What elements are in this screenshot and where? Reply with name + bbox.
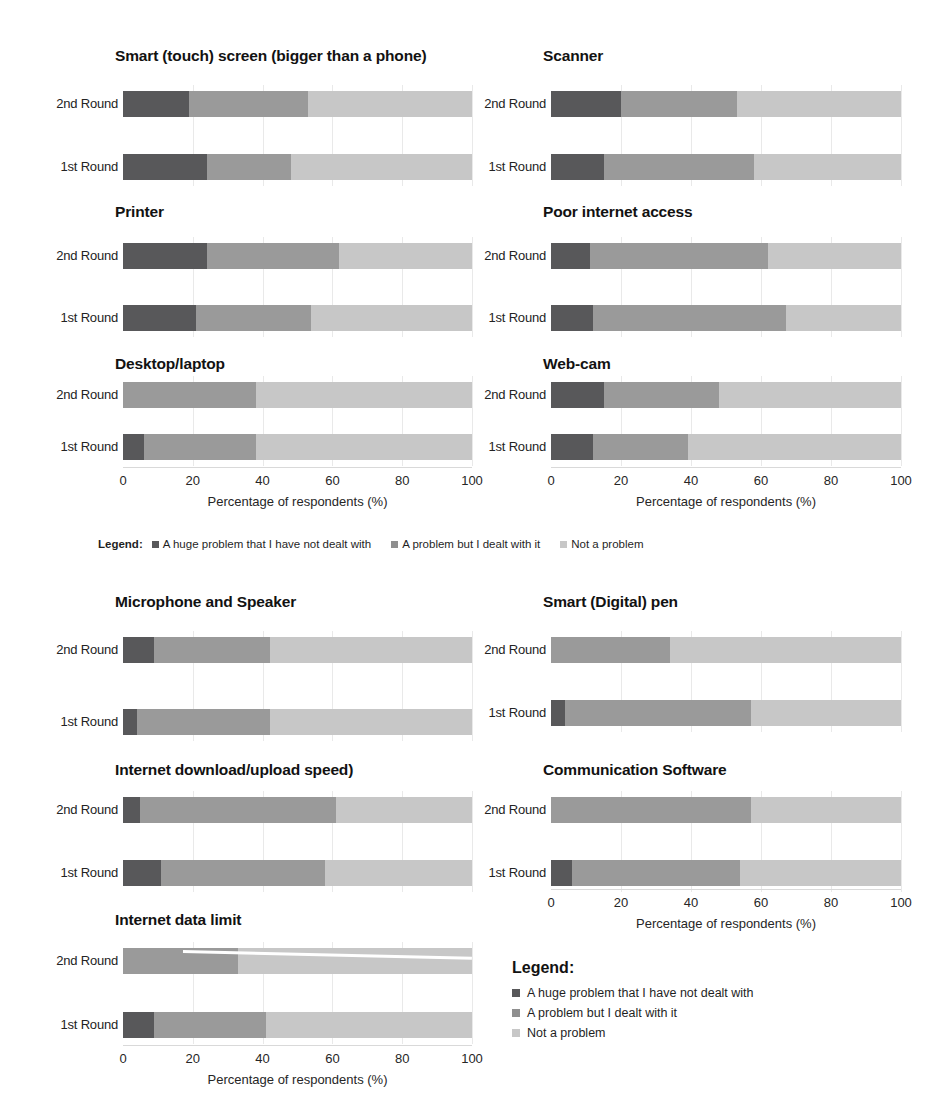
legend-block-item-label: A huge problem that I have not dealt wit…: [527, 986, 754, 1000]
row-label: 2nd Round: [484, 387, 546, 402]
stacked-bar: [123, 860, 472, 886]
panel-title: Internet data limit: [115, 911, 241, 929]
bar-segment-0: [551, 154, 604, 180]
legend-item: Not a problem: [560, 538, 643, 550]
stacked-bar: [123, 91, 472, 117]
legend-block-item-label: A problem but I dealt with it: [527, 1006, 677, 1020]
row-label: 2nd Round: [56, 642, 118, 657]
legend-block-item: A huge problem that I have not dealt wit…: [512, 986, 754, 1000]
bar-segment-1: [196, 305, 311, 331]
row-label: 2nd Round: [56, 953, 118, 968]
panel-title: Poor internet access: [543, 203, 692, 221]
axis-tick: 60: [754, 895, 768, 910]
stacked-bar: [123, 243, 472, 269]
legend-block: Legend:A huge problem that I have not de…: [512, 959, 754, 1046]
stacked-bar: [123, 305, 472, 331]
axis-tick: 60: [325, 1051, 339, 1066]
axis-line: [123, 467, 472, 468]
gridline: [901, 85, 902, 186]
stacked-bar: [123, 434, 472, 460]
bar-segment-1: [593, 434, 688, 460]
bar-segment-0: [551, 305, 593, 331]
bar-segment-2: [308, 91, 472, 117]
bar-segment-2: [256, 382, 472, 408]
page-top-cut-text: [0, 0, 942, 7]
legend-block-title: Legend:: [512, 959, 754, 977]
legend-swatch-1: [391, 541, 398, 548]
bar-segment-2: [270, 709, 472, 735]
bar-segment-1: [207, 154, 291, 180]
bar-segment-2: [291, 154, 472, 180]
axis-tick: 80: [824, 473, 838, 488]
gridline: [472, 942, 473, 1044]
axis-tick: 80: [824, 895, 838, 910]
bar-segment-1: [572, 860, 740, 886]
axis-line: [551, 889, 901, 890]
bar-segment-2: [266, 1012, 472, 1038]
axis-tick: 20: [614, 895, 628, 910]
stacked-bar: [551, 860, 901, 886]
bar-segment-2: [786, 305, 902, 331]
row-label: 1st Round: [489, 439, 546, 454]
bar-segment-0: [123, 434, 144, 460]
axis-tick: 60: [754, 473, 768, 488]
gridline: [901, 631, 902, 732]
axis-title: Percentage of respondents (%): [551, 916, 901, 931]
bar-segment-0: [123, 1012, 154, 1038]
axis-tick: 100: [890, 895, 912, 910]
stacked-bar: [551, 154, 901, 180]
bar-segment-2: [256, 434, 472, 460]
bar-segment-2: [311, 305, 472, 331]
bar-segment-1: [189, 91, 308, 117]
bar-segment-0: [551, 860, 572, 886]
bar-segment-1: [161, 860, 325, 886]
legend-item: A huge problem that I have not dealt wit…: [152, 538, 371, 550]
row-label: 1st Round: [61, 439, 118, 454]
gridline: [472, 85, 473, 186]
row-label: 1st Round: [61, 159, 118, 174]
bar-segment-1: [604, 154, 755, 180]
bar-segment-2: [754, 154, 901, 180]
row-label: 1st Round: [489, 705, 546, 720]
bar-segment-0: [551, 434, 593, 460]
stacked-bar: [551, 434, 901, 460]
axis-tick: 20: [186, 1051, 200, 1066]
legend-block-item: Not a problem: [512, 1026, 754, 1040]
legend-item-label: A huge problem that I have not dealt wit…: [163, 538, 371, 550]
bar-segment-0: [551, 243, 590, 269]
bar-segment-0: [551, 382, 604, 408]
panel-title: Desktop/laptop: [115, 355, 225, 373]
axis-tick: 40: [255, 1051, 269, 1066]
row-label: 2nd Round: [484, 248, 546, 263]
axis-tick: 40: [684, 473, 698, 488]
stacked-bar: [551, 637, 901, 663]
legend-swatch-2: [512, 1029, 520, 1037]
bar-segment-2: [336, 797, 472, 823]
bar-segment-0: [551, 91, 621, 117]
stacked-bar: [551, 91, 901, 117]
bar-segment-2: [719, 382, 901, 408]
axis-tick: 80: [395, 1051, 409, 1066]
row-label: 1st Round: [489, 865, 546, 880]
stacked-bar: [551, 382, 901, 408]
panel-title: Microphone and Speaker: [115, 593, 296, 611]
stacked-bar: [123, 1012, 472, 1038]
panel-title: Communication Software: [543, 761, 727, 779]
panel-title: Internet download/upload speed): [115, 761, 353, 779]
gridline: [472, 376, 473, 466]
legend-inline: Legend:A huge problem that I have not de…: [98, 538, 663, 550]
axis-ticks: 020406080100: [0, 895, 942, 913]
stacked-bar: [551, 797, 901, 823]
row-label: 1st Round: [489, 310, 546, 325]
axis-tick: 0: [119, 1051, 126, 1066]
bar-segment-0: [123, 305, 196, 331]
bar-segment-1: [565, 700, 751, 726]
row-label: 2nd Round: [56, 248, 118, 263]
axis-tick: 0: [547, 895, 554, 910]
axis-tick: 100: [890, 473, 912, 488]
bar-segment-1: [551, 797, 751, 823]
bar-segment-0: [123, 91, 189, 117]
stacked-bar: [123, 637, 472, 663]
axis-tick: 100: [461, 1051, 483, 1066]
gridline: [901, 791, 902, 892]
